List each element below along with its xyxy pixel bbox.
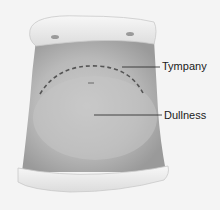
- dullness-label: Dullness: [164, 110, 206, 121]
- rib-shadow-right: [126, 32, 134, 36]
- dullness-region: [33, 76, 157, 160]
- tympany-label: Tympany: [162, 61, 207, 72]
- abdomen-illustration: [0, 0, 220, 210]
- rib-shadow-left: [51, 35, 59, 39]
